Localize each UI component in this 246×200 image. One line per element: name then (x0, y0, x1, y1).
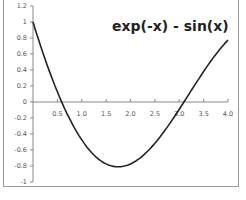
x-tick-label: 2.0 (125, 110, 135, 118)
y-tick-label: 1 (23, 18, 27, 26)
y-tick-label: -0.8 (14, 162, 27, 170)
chart-title: exp(-x) - sin(x) (112, 18, 229, 34)
x-axis: 0.51.01.52.02.53.03.54.0 (33, 99, 233, 118)
y-tick-label: 0.4 (17, 66, 27, 74)
y-tick-label: 0.6 (17, 50, 27, 58)
x-tick-label: 3.5 (198, 110, 208, 118)
x-tick-label: 1.0 (77, 110, 87, 118)
y-tick-label: -0.2 (14, 114, 27, 122)
y-tick-label: 0.2 (17, 82, 27, 90)
x-tick-label: 4.0 (223, 110, 233, 118)
y-tick-label: 0 (23, 98, 27, 106)
series-line (33, 22, 228, 167)
y-tick-label: 0.8 (17, 34, 27, 42)
line-chart: 1.210.80.60.40.20-0.2-0.4-0.6-0.8-1 0.51… (0, 0, 246, 200)
y-axis: 1.210.80.60.40.20-0.2-0.4-0.6-0.8-1 (14, 2, 33, 186)
y-tick-label: 1.2 (17, 2, 27, 10)
y-tick-label: -0.6 (14, 146, 27, 154)
y-tick-label: -0.4 (14, 130, 27, 138)
x-tick-label: 0.5 (52, 110, 62, 118)
x-tick-label: 2.5 (150, 110, 160, 118)
y-tick-label: -1 (21, 178, 27, 186)
x-tick-label: 1.5 (101, 110, 111, 118)
